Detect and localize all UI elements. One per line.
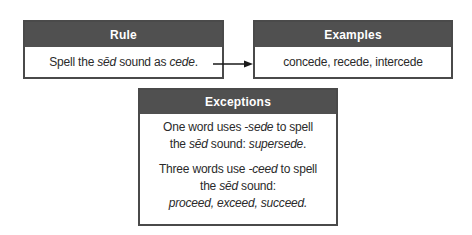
exceptions-body: One word uses -sede to spell the sēd sou…	[140, 114, 336, 212]
rule-word: cede	[169, 55, 194, 69]
examples-title: Examples	[324, 28, 382, 42]
exception-ceed-line2: the sēd sound:	[159, 178, 317, 195]
rule-body: Spell the sēd sound as cede.	[25, 47, 222, 77]
examples-text: concede, recede, intercede	[283, 55, 423, 69]
exception-sede-line1: One word uses -sede to spell	[163, 119, 313, 136]
examples-body: concede, recede, intercede	[255, 47, 451, 77]
text: sound:	[238, 179, 276, 193]
exceptions-header: Exceptions	[140, 90, 336, 114]
text: Three words use	[159, 162, 249, 176]
text: to spell	[277, 162, 317, 176]
text: the	[170, 137, 189, 151]
exception-ceed: Three words use -ceed to spell the sēd s…	[159, 161, 317, 212]
text: sound:	[208, 137, 249, 151]
exception-ceed-line1: Three words use -ceed to spell	[159, 161, 317, 178]
exception-ceed-line3: proceed, exceed, succeed.	[159, 195, 317, 212]
rule-text: Spell the sēd sound as cede.	[49, 55, 198, 69]
rule-sound: sēd	[97, 55, 116, 69]
word: supersede	[249, 137, 303, 151]
words: proceed, exceed, succeed.	[169, 196, 307, 210]
examples-header: Examples	[255, 22, 451, 47]
rule-header: Rule	[25, 22, 222, 47]
text: to spell	[273, 120, 313, 134]
rule-text-mid: sound as	[116, 55, 169, 69]
exception-sede: One word uses -sede to spell the sēd sou…	[163, 119, 313, 153]
examples-box: Examples concede, recede, intercede	[253, 20, 453, 79]
text: .	[303, 137, 306, 151]
exceptions-title: Exceptions	[205, 95, 271, 109]
rule-text-pre: Spell the	[49, 55, 97, 69]
text: the	[200, 179, 219, 193]
suffix: -ceed	[248, 162, 277, 176]
suffix: -sede	[244, 120, 273, 134]
arrow-icon	[213, 58, 257, 70]
text: One word uses	[163, 120, 244, 134]
rule-text-post: .	[195, 55, 198, 69]
rule-title: Rule	[110, 28, 137, 42]
exceptions-box: Exceptions One word uses -sede to spell …	[138, 88, 338, 226]
exception-sede-line2: the sēd sound: supersede.	[163, 136, 313, 153]
sound: sēd	[219, 179, 238, 193]
rule-box: Rule Spell the sēd sound as cede.	[23, 20, 224, 79]
sound: sēd	[189, 137, 208, 151]
